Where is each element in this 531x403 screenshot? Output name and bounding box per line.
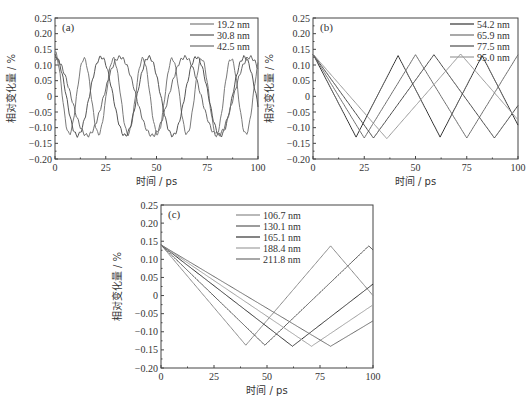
panel-label: (a): [62, 21, 75, 34]
y-tick-label: −0.15: [287, 138, 310, 149]
x-axis-title: 时间 / ps: [136, 175, 177, 187]
x-tick-label: 75: [315, 371, 325, 382]
y-tick-label: 0.15: [141, 236, 159, 247]
x-tick-label: 0: [159, 371, 164, 382]
y-tick-label: 0.25: [35, 13, 53, 24]
x-tick-label: 100: [251, 162, 266, 173]
y-tick-label: 0.05: [293, 75, 311, 86]
x-tick-label: 0: [311, 162, 316, 173]
x-tick-label: 75: [202, 162, 212, 173]
x-tick-label: 25: [101, 162, 111, 173]
y-tick-label: 0: [47, 91, 52, 102]
x-tick-label: 25: [359, 162, 369, 173]
y-tick-label: 0.10: [35, 60, 53, 71]
y-tick-label: −0.10: [29, 122, 52, 133]
x-tick-label: 25: [209, 371, 219, 382]
legend-label: 95.0 nm: [477, 52, 510, 63]
y-tick-label: 0.10: [293, 60, 311, 71]
y-axis-title: 相对变化量 / %: [111, 252, 123, 321]
x-axis-title: 时间 / ps: [246, 384, 287, 396]
y-axis-title: 相对变化量 / %: [263, 54, 275, 123]
panel-a-chart: 0.250.200.150.100.050−0.05−0.10−0.15−0.2…: [5, 13, 266, 188]
y-tick-label: 0.20: [141, 218, 159, 229]
y-tick-label: −0.15: [29, 138, 52, 149]
y-axis-title: 相对变化量 / %: [5, 54, 17, 123]
x-tick-label: 0: [53, 162, 58, 173]
legend-label: 165.1 nm: [263, 232, 301, 243]
panel-b-chart: 0.250.200.150.100.050−0.05−0.10−0.15−0.2…: [263, 13, 526, 188]
x-axis-title: 时间 / ps: [395, 175, 436, 187]
y-tick-label: 0.25: [141, 200, 159, 211]
panel-label: (c): [168, 208, 181, 221]
y-tick-label: 0: [153, 290, 158, 301]
y-tick-label: 0.05: [35, 75, 53, 86]
y-tick-label: −0.10: [287, 122, 310, 133]
y-tick-label: 0.25: [293, 13, 311, 24]
figure-canvas: 0.250.200.150.100.050−0.05−0.10−0.15−0.2…: [0, 0, 531, 403]
y-tick-label: −0.20: [29, 154, 52, 165]
x-tick-label: 100: [511, 162, 526, 173]
legend-label: 130.1 nm: [263, 221, 301, 232]
series-line-54-2-nm: [313, 54, 518, 137]
panel-c-chart: 0.250.200.150.100.050−0.05−0.10−0.15−0.2…: [111, 200, 381, 397]
series-line-77-5-nm: [313, 54, 518, 138]
legend-label: 65.9 nm: [477, 30, 510, 41]
panel-label: (b): [320, 21, 333, 34]
legend-label: 30.8 nm: [217, 30, 250, 41]
y-tick-label: 0.15: [35, 44, 53, 55]
y-tick-label: −0.05: [135, 308, 158, 319]
y-tick-label: 0.10: [141, 254, 159, 265]
y-tick-label: 0.05: [141, 272, 159, 283]
y-tick-label: 0.20: [293, 28, 311, 39]
series-line-19-2-nm: [55, 52, 258, 136]
y-tick-label: 0.20: [35, 28, 53, 39]
legend-label: 19.2 nm: [217, 19, 250, 30]
y-tick-label: 0.15: [293, 44, 311, 55]
legend: 19.2 nm30.8 nm42.5 nm: [190, 19, 250, 52]
legend-label: 42.5 nm: [217, 41, 250, 52]
x-tick-label: 75: [462, 162, 472, 173]
legend: 106.7 nm130.1 nm165.1 nm188.4 nm211.8 nm: [236, 210, 301, 265]
y-tick-label: −0.20: [135, 363, 158, 374]
y-tick-label: −0.20: [287, 154, 310, 165]
legend-label: 54.2 nm: [477, 19, 510, 30]
y-tick-label: −0.05: [29, 107, 52, 118]
y-tick-label: −0.15: [135, 344, 158, 355]
y-tick-label: −0.10: [135, 326, 158, 337]
y-tick-label: −0.05: [287, 107, 310, 118]
legend-label: 106.7 nm: [263, 210, 301, 221]
legend-label: 211.8 nm: [263, 254, 301, 265]
x-tick-label: 100: [366, 371, 381, 382]
x-tick-label: 50: [411, 162, 421, 173]
x-tick-label: 50: [262, 371, 272, 382]
legend-label: 188.4 nm: [263, 243, 301, 254]
x-tick-label: 50: [152, 162, 162, 173]
legend-label: 77.5 nm: [477, 41, 510, 52]
y-tick-label: 0: [305, 91, 310, 102]
